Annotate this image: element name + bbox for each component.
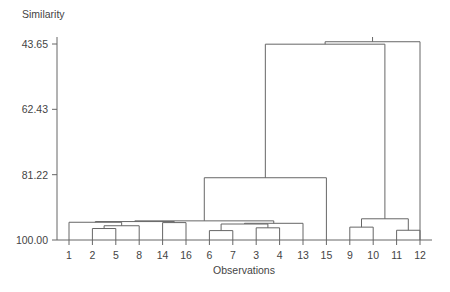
obs-label-6: 6 xyxy=(206,249,212,261)
obs-label-1: 1 xyxy=(66,249,72,261)
dendrogram-lines xyxy=(69,37,420,240)
obs-label-16: 16 xyxy=(180,249,192,261)
y-tick-label-2: 81.22 xyxy=(22,169,48,181)
x-axis-title: Observations xyxy=(213,264,275,276)
y-tick-label-0: 43.65 xyxy=(22,38,48,50)
obs-label-3: 3 xyxy=(253,249,259,261)
y-axis: 43.6562.4381.22100.00 xyxy=(16,37,57,246)
y-tick-label-1: 62.43 xyxy=(22,103,48,115)
obs-label-5: 5 xyxy=(113,249,119,261)
obs-label-8: 8 xyxy=(136,249,142,261)
obs-label-10: 10 xyxy=(367,249,379,261)
y-axis-title: Similarity xyxy=(22,8,65,20)
dendrogram-chart: Similarity Observations 43.6562.4381.221… xyxy=(0,0,450,292)
obs-label-4: 4 xyxy=(277,249,283,261)
obs-label-2: 2 xyxy=(89,249,95,261)
y-tick-label-3: 100.00 xyxy=(16,234,48,246)
obs-label-12: 12 xyxy=(414,249,426,261)
obs-label-7: 7 xyxy=(230,249,236,261)
x-axis: 12581416673413159101112 xyxy=(57,240,432,261)
obs-label-14: 14 xyxy=(157,249,169,261)
obs-label-13: 13 xyxy=(297,249,309,261)
obs-label-9: 9 xyxy=(347,249,353,261)
obs-label-11: 11 xyxy=(391,249,402,261)
dendrogram-svg: Similarity Observations 43.6562.4381.221… xyxy=(0,0,450,292)
obs-label-15: 15 xyxy=(321,249,333,261)
